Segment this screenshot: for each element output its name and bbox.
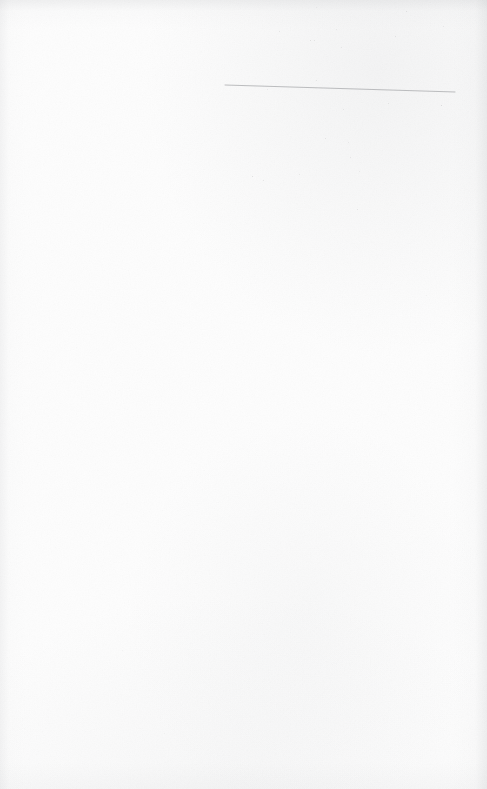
rule-line-layer — [0, 0, 487, 789]
speckle-scatter-lower-right — [236, 470, 487, 770]
speckle-cluster-top-right — [252, 0, 487, 215]
scanned-page — [0, 0, 487, 789]
paper-grain-texture — [0, 0, 487, 789]
horizontal-rule-line — [225, 85, 455, 92]
speckle-scatter-page — [0, 0, 487, 789]
